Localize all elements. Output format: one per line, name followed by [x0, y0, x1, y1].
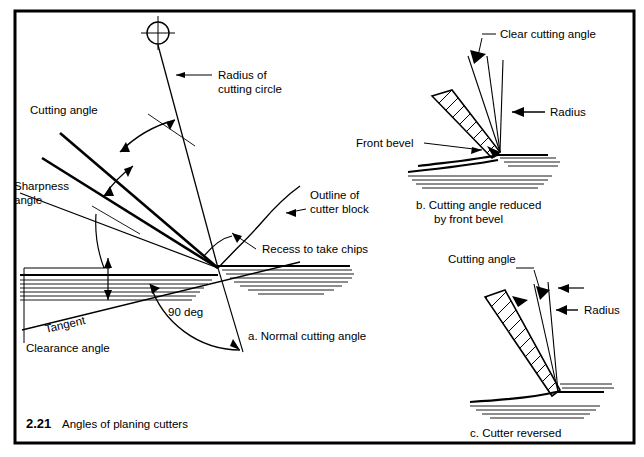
figure-number: 2.21 — [26, 416, 51, 431]
label-front-bevel: Front bevel — [356, 137, 414, 149]
label-radius-line1: Radius of — [218, 69, 267, 81]
caption-figure-c: c. Cutter reversed — [470, 427, 561, 439]
label-cutting-angle-c: Cutting angle — [448, 253, 516, 265]
label-sharpness-angle-line2: angle — [14, 194, 42, 206]
label-cutting-angle: Cutting angle — [30, 104, 98, 116]
technical-figure: Cutting angle Sharpness angle Radius of … — [0, 0, 644, 457]
caption-figure-a: a. Normal cutting angle — [248, 330, 366, 342]
label-clearance-angle: Clearance angle — [26, 342, 110, 354]
caption-figure-b-line2: by front bevel — [434, 213, 503, 225]
caption-figure-b-line1: b. Cutting angle reduced — [416, 199, 541, 211]
label-radius-b: Radius — [550, 106, 586, 118]
label-sharpness-angle-line1: Sharpness — [14, 180, 69, 192]
label-right-angle: 90 deg — [168, 306, 203, 318]
label-recess: Recess to take chips — [262, 243, 368, 255]
label-outline-line2: cutter block — [310, 203, 369, 215]
label-outline-line1: Outline of — [310, 189, 360, 201]
planing-cutter-angles-diagram: Cutting angle Sharpness angle Radius of … — [0, 0, 644, 457]
figure-caption: Angles of planing cutters — [62, 418, 188, 430]
label-radius-line2: cutting circle — [218, 83, 282, 95]
label-radius-c: Radius — [584, 304, 620, 316]
label-clear-cutting-angle: Clear cutting angle — [500, 28, 596, 40]
